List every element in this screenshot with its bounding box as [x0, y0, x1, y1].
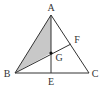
label-g: G	[55, 52, 62, 63]
point-g-dot	[49, 51, 52, 54]
geometry-diagram: A B C E F G	[0, 0, 106, 87]
label-f: F	[74, 34, 80, 45]
label-b: B	[4, 68, 11, 79]
label-c: C	[92, 68, 99, 79]
triangle-figure: A B C E F G	[0, 0, 106, 87]
label-e: E	[48, 76, 54, 87]
label-a: A	[47, 2, 55, 13]
